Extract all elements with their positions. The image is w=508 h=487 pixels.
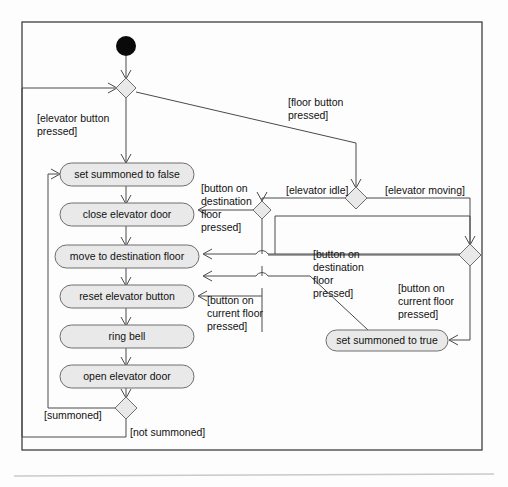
diagram-svg: set summoned to false close elevator doo… (0, 0, 508, 487)
activity-set-summoned-to-false[interactable]: set summoned to false (60, 163, 194, 186)
guard-button-current-floor-left: [button on current floor pressed] (207, 294, 264, 332)
node-layer: set summoned to false close elevator doo… (55, 36, 481, 419)
page-separator (14, 474, 494, 476)
activity-open-elevator-door[interactable]: open elevator door (60, 365, 194, 388)
guard-line: [floor button (288, 96, 344, 108)
activity-label: move to destination floor (70, 250, 185, 262)
edge-moving-up-return (275, 216, 470, 254)
activity-diagram-canvas: set summoned to false close elevator doo… (0, 0, 508, 487)
initial-node (116, 36, 136, 56)
activity-label: open elevator door (83, 370, 171, 382)
guard-elevator-idle: [elevator idle] (286, 184, 349, 196)
guard-line: [button on (398, 282, 445, 294)
decision-merge-left[interactable] (253, 201, 271, 219)
guard-line: [not summoned] (130, 426, 205, 438)
guard-line: pressed] (288, 109, 328, 121)
guard-line: [button on (207, 294, 254, 306)
guard-line: pressed] (201, 221, 241, 233)
edge-elevator-moving (367, 198, 470, 244)
activity-label: reset elevator button (79, 290, 175, 302)
guard-line: pressed] (398, 308, 438, 320)
guard-line: [elevator moving] (385, 184, 465, 196)
guard-not-summoned: [not summoned] (130, 426, 205, 438)
guard-line: [button on (313, 248, 360, 260)
decision-summoned[interactable] (115, 397, 137, 419)
guard-line: pressed] (37, 125, 77, 137)
decision-moving-branch[interactable] (459, 244, 481, 266)
activity-label: ring bell (109, 330, 146, 342)
guard-line: floor (313, 274, 334, 286)
activity-label: set summoned to false (74, 168, 180, 180)
guard-line: [elevator idle] (286, 184, 349, 196)
decision-top[interactable] (116, 78, 136, 98)
guard-line: destination (313, 261, 364, 273)
guard-elevator-moving: [elevator moving] (385, 184, 465, 196)
activity-reset-elevator-button[interactable]: reset elevator button (60, 285, 194, 308)
guard-line: pressed] (313, 287, 353, 299)
activity-close-elevator-door[interactable]: close elevator door (60, 203, 194, 226)
guard-line: current floor (398, 295, 455, 307)
activity-move-to-destination-floor[interactable]: move to destination floor (55, 245, 199, 268)
activity-label: set summoned to true (336, 334, 438, 346)
guard-summoned: [summoned] (44, 409, 102, 421)
guard-line: current floor (207, 307, 264, 319)
guard-line: [button on (201, 182, 248, 194)
guard-elevator-button-pressed: [elevator button pressed] (37, 112, 110, 137)
guard-button-destination-floor-right: [button on destination floor pressed] (313, 248, 364, 299)
guard-button-current-floor-right: [button on current floor pressed] (398, 282, 455, 320)
guard-line: floor (201, 208, 222, 220)
activity-set-summoned-to-true[interactable]: set summoned to true (326, 330, 448, 351)
guard-line: [summoned] (44, 409, 102, 421)
activity-ring-bell[interactable]: ring bell (60, 325, 194, 348)
activity-label: close elevator door (83, 208, 172, 220)
guard-button-destination-floor-left: [button on destination floor pressed] (201, 182, 252, 233)
guard-line: destination (201, 195, 252, 207)
guard-floor-button-pressed: [floor button pressed] (288, 96, 344, 121)
guard-line: pressed] (207, 320, 247, 332)
guard-line: [elevator button (37, 112, 110, 124)
